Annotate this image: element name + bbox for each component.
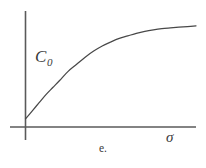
curve-label-subscript: 0: [47, 56, 53, 68]
curve-c0: [26, 26, 197, 119]
curve-label: C0: [35, 48, 53, 68]
figure-caption: e.: [0, 143, 206, 155]
figure-container: C0 σ e.: [0, 0, 206, 168]
curve-label-base: C: [35, 47, 47, 66]
